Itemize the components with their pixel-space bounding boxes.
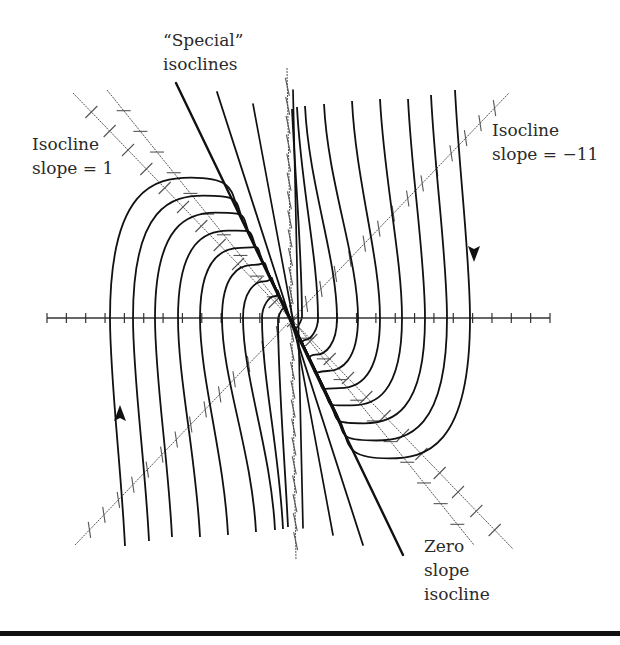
label-line: slope = −11 — [492, 142, 598, 166]
isocline-tick — [293, 475, 297, 493]
isocline-tick — [204, 401, 206, 417]
isocline-tick — [479, 115, 481, 131]
zero-slope-isocline-label: Zero slope isocline — [424, 534, 490, 606]
label-line: Isocline — [32, 132, 113, 156]
isocline-tick — [85, 106, 97, 118]
isocline-tick — [320, 281, 322, 297]
trajectory-left — [178, 231, 290, 537]
label-line: “Special” — [163, 28, 244, 52]
isocline-tick — [421, 175, 423, 191]
special-isocline-line — [253, 104, 333, 535]
label-line: isoclines — [163, 52, 244, 76]
isocline-tick — [117, 492, 119, 508]
label-line: Zero — [424, 534, 490, 558]
isocline-tick — [88, 522, 90, 538]
isocline-tick — [407, 190, 409, 206]
isocline-tick — [378, 221, 380, 237]
trajectory-right — [290, 99, 402, 405]
isocline-tick — [233, 371, 235, 387]
trajectory-left — [155, 213, 290, 537]
isocline-tick — [175, 432, 177, 448]
isocline-tick — [190, 416, 192, 432]
isocline-tick — [363, 236, 365, 252]
special-isoclines-label: “Special” isoclines — [163, 28, 244, 76]
isocline-tick — [161, 447, 163, 463]
isocline-tick — [177, 201, 189, 213]
label-line: slope — [424, 558, 490, 582]
trajectory-right — [290, 99, 425, 423]
isocline-slope-minus-11-label: Isocline slope = −11 — [492, 118, 598, 166]
trajectory-left — [243, 278, 290, 530]
isocline-tick — [103, 507, 105, 523]
isocline-tick — [464, 130, 466, 146]
isocline-tick — [288, 229, 292, 247]
label-line: slope = 1 — [32, 156, 113, 180]
isocline-tick — [146, 462, 148, 478]
isocline-tick — [287, 173, 291, 191]
bottom-rule — [0, 631, 620, 636]
label-line: isocline — [424, 582, 490, 606]
label-line: Isocline — [492, 118, 598, 142]
isocline-tick — [132, 477, 134, 493]
phase-plane-diagram — [0, 0, 620, 645]
isocline-tick — [218, 386, 220, 402]
arrow-down-icon — [468, 246, 480, 262]
isocline-tick — [452, 486, 464, 498]
isocline-tick — [493, 100, 495, 116]
isocline-tick — [305, 296, 307, 312]
isocline-tick — [450, 145, 452, 161]
isocline-tick — [292, 419, 296, 437]
isocline-slope-1-label: Isocline slope = 1 — [32, 132, 113, 180]
